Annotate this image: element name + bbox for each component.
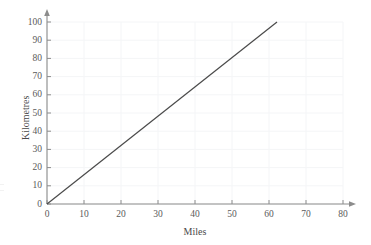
y-axis-line xyxy=(44,9,50,204)
y-axis-ticks xyxy=(47,22,51,204)
y-tick-label-100: 100 xyxy=(16,18,42,28)
x-tick-label-80: 80 xyxy=(329,210,357,220)
x-tick-label-30: 30 xyxy=(144,210,172,220)
y-tick-label-10: 10 xyxy=(16,181,42,191)
x-axis-line xyxy=(47,201,356,207)
y-tick-label-80: 80 xyxy=(16,54,42,64)
y-axis-title: Kilometres xyxy=(21,96,31,140)
x-tick-label-50: 50 xyxy=(218,210,246,220)
x-tick-label-70: 70 xyxy=(292,210,320,220)
x-axis-arrow xyxy=(349,201,356,207)
y-tick-label-20: 20 xyxy=(16,163,42,173)
x-tick-label-60: 60 xyxy=(255,210,283,220)
y-tick-label-90: 90 xyxy=(16,36,42,46)
y-tick-label-70: 70 xyxy=(16,72,42,82)
x-axis-title: Miles xyxy=(165,227,225,237)
y-tick-label-0: 0 xyxy=(16,200,42,210)
y-axis-arrow xyxy=(44,9,50,16)
y-tick-label-30: 30 xyxy=(16,145,42,155)
x-tick-label-40: 40 xyxy=(181,210,209,220)
x-tick-label-0: 0 xyxy=(33,210,61,220)
chart-plot-area xyxy=(0,0,371,245)
chart-container: 100 90 80 70 60 50 40 30 20 10 0 0 10 20… xyxy=(0,0,371,245)
x-tick-label-20: 20 xyxy=(107,210,135,220)
x-tick-label-10: 10 xyxy=(70,210,98,220)
x-axis-ticks xyxy=(47,200,343,204)
